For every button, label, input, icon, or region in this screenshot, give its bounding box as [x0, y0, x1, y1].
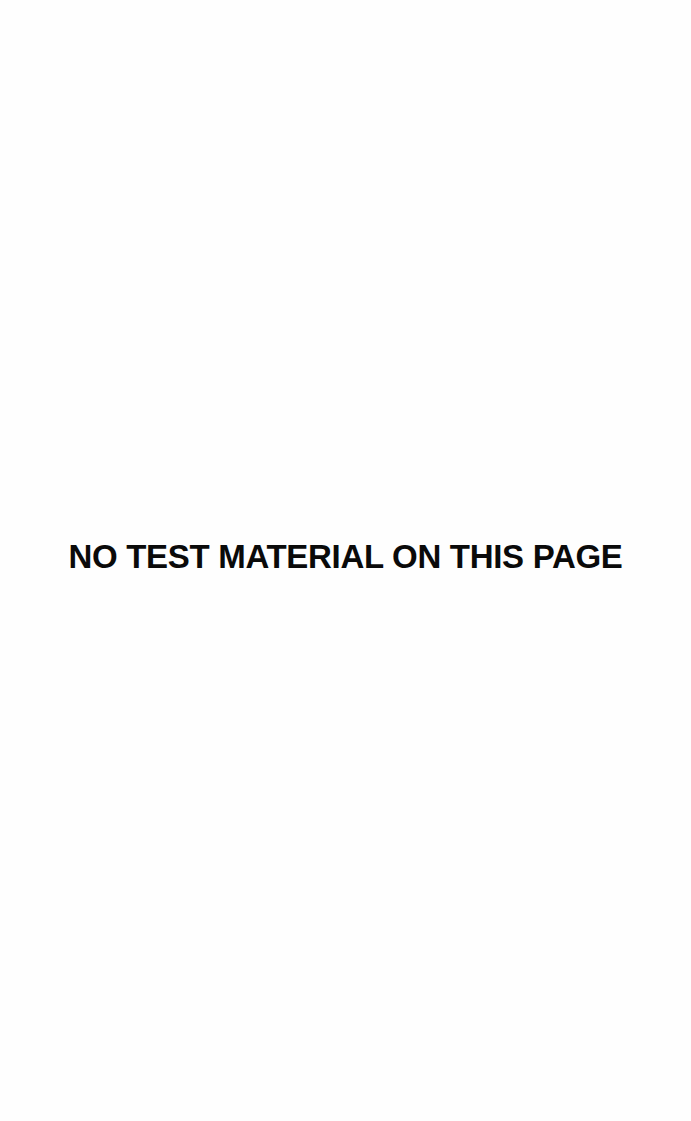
document-page: NO TEST MATERIAL ON THIS PAGE: [0, 0, 691, 1121]
no-test-material-notice: NO TEST MATERIAL ON THIS PAGE: [0, 537, 691, 577]
